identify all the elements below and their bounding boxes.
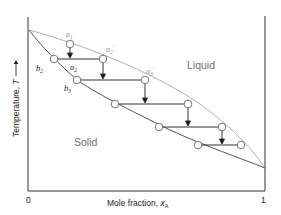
x-tick-0: 0 — [26, 195, 31, 205]
label-a1: a1 — [66, 30, 73, 40]
label-a2: a2 — [70, 62, 77, 73]
point-a5-prime — [218, 123, 226, 131]
point-b5 — [155, 123, 163, 131]
point-b6 — [194, 141, 202, 149]
label-a3-prime: a3′ — [146, 66, 155, 77]
point-b4 — [111, 100, 119, 108]
x-axis-label: Mole fraction, xA — [107, 198, 169, 209]
point-a6-prime — [237, 141, 245, 149]
label-b3: b3 — [64, 83, 71, 94]
x-tick-1: 1 — [261, 195, 266, 205]
point-a1 — [66, 40, 74, 48]
point-a3-prime — [141, 76, 149, 84]
point-b3 — [73, 76, 81, 84]
point-a2-prime — [99, 55, 107, 63]
label-a2-prime: a2′ — [106, 44, 115, 55]
y-axis-arrowhead-icon — [14, 60, 19, 64]
point-b2 — [50, 55, 58, 63]
state-points — [50, 40, 245, 149]
point-a4-prime — [184, 100, 192, 108]
region-solid: Solid — [74, 136, 98, 148]
region-liquid: Liquid — [187, 59, 215, 71]
label-b2: b2 — [36, 63, 43, 74]
phase-diagram: a1 a2 a2′ a3′ b2 b3 Liquid Solid 0 1 Mol… — [0, 0, 281, 215]
y-axis-label: Temperature, T — [11, 79, 21, 137]
